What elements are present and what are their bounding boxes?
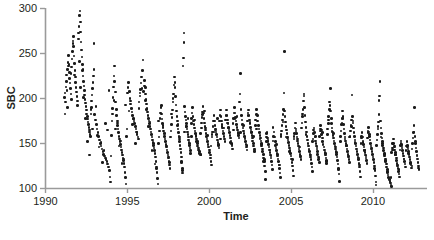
scatter-point: [321, 131, 324, 134]
scatter-point: [131, 123, 134, 126]
scatter-point: [188, 142, 191, 145]
scatter-point: [89, 135, 92, 138]
scatter-point: [242, 124, 245, 127]
scatter-point: [203, 122, 206, 125]
scatter-point: [168, 161, 171, 164]
x-tick-label: 2000: [189, 196, 229, 207]
scatter-point: [304, 114, 307, 117]
scatter-point: [170, 113, 173, 116]
scatter-point: [66, 106, 69, 109]
scatter-point: [329, 87, 332, 90]
scatter-point: [314, 135, 317, 138]
scatter-point: [392, 138, 395, 141]
scatter-point: [160, 113, 163, 116]
scatter-point: [174, 86, 177, 89]
scatter-point: [413, 106, 416, 109]
scatter-point: [283, 50, 286, 53]
scatter-point: [304, 121, 307, 124]
scatter-point: [296, 138, 299, 141]
scatter-point: [417, 167, 420, 170]
scatter-point: [183, 131, 186, 134]
scatter-point: [390, 151, 393, 154]
scatter-point: [250, 131, 253, 134]
scatter-point: [144, 99, 147, 102]
scatter-point: [305, 133, 308, 136]
scatter-point: [112, 86, 115, 89]
scatter-point: [374, 175, 377, 178]
scatter-point: [291, 158, 294, 161]
scatter-point: [301, 113, 304, 116]
scatter-point: [195, 134, 198, 137]
scatter-point: [276, 153, 279, 156]
scatter-point: [256, 114, 259, 117]
scatter-point: [357, 157, 360, 160]
scatter-point: [82, 80, 85, 83]
scatter-point: [92, 75, 95, 78]
scatter-point: [167, 156, 170, 159]
scatter-point: [100, 141, 103, 144]
scatter-point: [416, 158, 419, 161]
scatter-point: [318, 161, 321, 164]
scatter-point: [275, 143, 278, 146]
scatter-point: [70, 98, 73, 101]
scatter-point: [231, 143, 234, 146]
scatter-point: [292, 175, 295, 178]
scatter-point: [199, 132, 202, 135]
scatter-point: [253, 149, 256, 152]
scatter-point: [130, 107, 133, 110]
scatter-point: [144, 86, 147, 89]
x-tick-label: 2005: [271, 196, 311, 207]
scatter-point: [82, 96, 85, 99]
scatter-point: [190, 135, 193, 138]
scatter-point: [414, 135, 417, 138]
scatter-point: [158, 130, 161, 133]
scatter-point: [69, 87, 72, 90]
scatter-point: [246, 144, 249, 147]
scatter-point: [311, 140, 314, 143]
scatter-point: [72, 35, 75, 38]
scatter-point: [113, 80, 116, 83]
x-tick-label: 2010: [353, 196, 393, 207]
scatter-point: [260, 143, 263, 146]
scatter-point: [116, 124, 119, 127]
scatter-point: [217, 143, 220, 146]
scatter-point: [294, 122, 297, 125]
scatter-point: [96, 134, 99, 137]
scatter-point: [170, 123, 173, 126]
scatter-point: [310, 162, 313, 165]
scatter-point: [376, 133, 379, 136]
scatter-point: [171, 116, 174, 119]
scatter-point: [83, 89, 86, 92]
scatter-point: [354, 141, 357, 144]
scatter-point: [284, 121, 287, 124]
scatter-point: [348, 161, 351, 164]
scatter-point: [74, 81, 77, 84]
scatter-point: [141, 69, 144, 72]
scatter-point: [183, 105, 186, 108]
scatter-point: [85, 105, 88, 108]
scatter-point: [86, 140, 89, 143]
scatter-point: [252, 135, 255, 138]
scatter-point: [240, 114, 243, 117]
scatter-point: [379, 120, 382, 123]
scatter-point: [332, 132, 335, 135]
scatter-point: [295, 132, 298, 135]
scatter-point: [280, 133, 283, 136]
scatter-point: [113, 99, 116, 102]
scatter-point: [280, 130, 283, 133]
scatter-point: [370, 147, 373, 150]
scatter-point: [71, 50, 74, 53]
scatter-point: [285, 129, 288, 132]
scatter-point: [139, 95, 142, 98]
scatter-point: [79, 21, 82, 24]
scatter-point: [390, 185, 393, 188]
scatter-point: [156, 171, 159, 174]
scatter-point: [176, 115, 179, 118]
scatter-point: [237, 132, 240, 135]
scatter-point: [216, 117, 219, 120]
scatter-point: [338, 180, 341, 183]
scatter-point: [145, 108, 148, 111]
scatter-point: [351, 115, 354, 118]
scatter-point: [377, 125, 380, 128]
scatter-point: [368, 133, 371, 136]
